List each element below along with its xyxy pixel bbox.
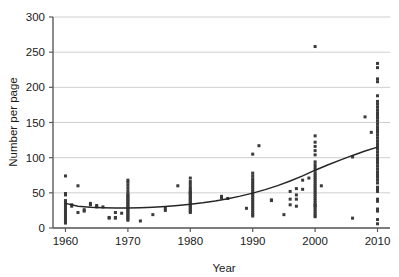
tick-marks-group (49, 17, 378, 232)
data-point (189, 191, 192, 194)
data-point (314, 153, 317, 156)
data-point (189, 183, 192, 186)
data-point (320, 184, 323, 187)
data-point (89, 203, 92, 206)
data-point (257, 144, 260, 147)
data-point (376, 218, 379, 221)
data-point (376, 106, 379, 109)
data-point (376, 165, 379, 168)
data-point (126, 184, 129, 187)
data-point (376, 139, 379, 142)
data-point (376, 94, 379, 97)
data-points-group (64, 45, 379, 225)
y-tick-labels-group: 050100150200250300 (26, 11, 45, 234)
data-point (376, 153, 379, 156)
data-point (189, 177, 192, 180)
data-point (289, 203, 292, 206)
data-point (245, 207, 248, 210)
y-tick-label: 300 (26, 11, 45, 23)
data-point (314, 166, 317, 169)
data-point (114, 211, 117, 214)
data-point (376, 170, 379, 173)
data-point (314, 45, 317, 48)
data-point (376, 100, 379, 103)
data-point (376, 159, 379, 162)
data-point (376, 125, 379, 128)
y-tick-label: 250 (26, 46, 45, 58)
data-point (376, 77, 379, 80)
data-point (314, 145, 317, 148)
data-point (126, 186, 129, 189)
data-point (126, 192, 129, 195)
y-axis-title: Number per page (7, 77, 19, 167)
x-tick-labels-group: 196019701980199020002010 (53, 235, 391, 247)
data-point (376, 181, 379, 184)
data-point (376, 151, 379, 154)
data-point (189, 186, 192, 189)
data-point (314, 172, 317, 175)
data-point (376, 114, 379, 117)
data-point (314, 204, 317, 207)
data-point (376, 117, 379, 120)
data-point (76, 211, 79, 214)
data-point (307, 177, 310, 180)
x-tick-label: 1980 (177, 235, 203, 247)
data-point (376, 122, 379, 125)
data-point (376, 66, 379, 69)
data-point (376, 162, 379, 165)
x-tick-label: 1990 (240, 235, 266, 247)
data-point (64, 199, 67, 202)
data-point (151, 213, 154, 216)
y-tick-label: 150 (26, 117, 45, 129)
data-point (64, 192, 67, 195)
data-point (376, 167, 379, 170)
data-point (251, 177, 254, 180)
data-point (376, 120, 379, 123)
data-point (251, 153, 254, 156)
data-point (376, 128, 379, 131)
data-point (376, 186, 379, 189)
data-point (295, 187, 298, 190)
scatter-plot: 050100150200250300 196019701980199020002… (0, 0, 399, 277)
data-point (376, 142, 379, 145)
data-point (139, 219, 142, 222)
data-point (351, 217, 354, 220)
data-point (364, 115, 367, 118)
data-point (164, 207, 167, 210)
x-tick-label: 1960 (53, 235, 79, 247)
data-point (376, 108, 379, 111)
data-point (314, 134, 317, 137)
data-point (189, 180, 192, 183)
data-point (314, 163, 317, 166)
data-point (120, 212, 123, 215)
data-point (376, 103, 379, 106)
data-point (314, 160, 317, 163)
data-point (376, 136, 379, 139)
data-point (295, 198, 298, 201)
data-point (126, 189, 129, 192)
data-point (376, 134, 379, 137)
data-point (376, 176, 379, 179)
data-point (376, 179, 379, 182)
data-point (76, 184, 79, 187)
x-tick-label: 1970 (115, 235, 141, 247)
x-tick-label: 2000 (302, 235, 328, 247)
data-point (376, 198, 379, 201)
data-point (301, 179, 304, 182)
data-point (108, 217, 111, 220)
data-point (282, 213, 285, 216)
y-tick-label: 100 (26, 152, 45, 164)
data-point (114, 216, 117, 219)
data-point (289, 190, 292, 193)
data-point (370, 131, 373, 134)
data-point (376, 208, 379, 211)
data-point (376, 111, 379, 114)
data-point (376, 222, 379, 225)
data-point (176, 184, 179, 187)
data-point (270, 198, 273, 201)
data-point (376, 131, 379, 134)
data-point (295, 205, 298, 208)
data-point (126, 179, 129, 182)
y-tick-label: 0 (39, 222, 45, 234)
data-point (301, 188, 304, 191)
